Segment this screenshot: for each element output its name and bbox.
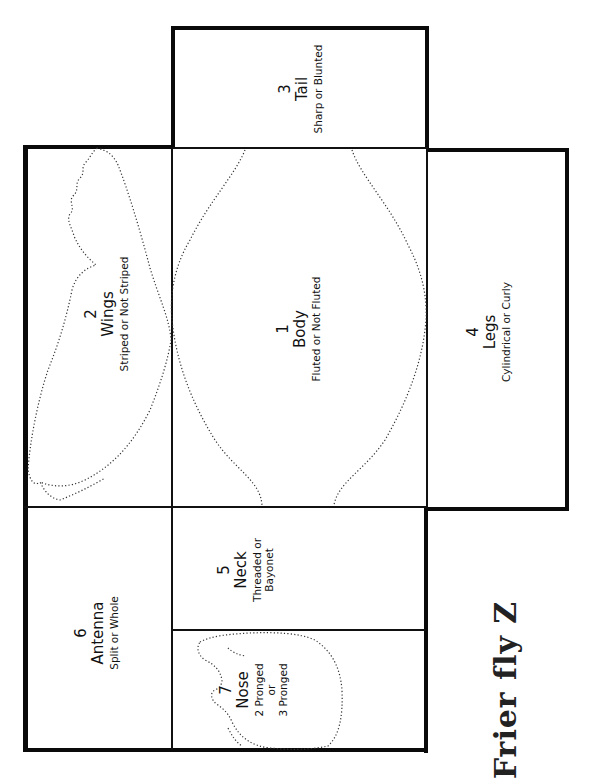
wings-name: Wings bbox=[100, 257, 117, 372]
legs-name: Legs bbox=[482, 282, 499, 382]
panel-antenna: 6 Antenna Split or Whole bbox=[28, 508, 171, 748]
panel-wings: 2 Wings Striped or Not Striped bbox=[28, 149, 171, 506]
diagram-title: Frier fly Z bbox=[488, 601, 523, 779]
nose-desc-line3: 3 Pronged bbox=[276, 663, 288, 716]
legs-number: 4 bbox=[465, 282, 482, 382]
nose-name: Nose bbox=[235, 663, 252, 716]
tail-label: 3 Tail Sharp or Blunted bbox=[277, 45, 324, 134]
wings-number: 2 bbox=[83, 257, 100, 372]
neck-desc-line2: Bayonet bbox=[262, 538, 274, 602]
panel-legs: 4 Legs Cylindrical or Curly bbox=[428, 152, 565, 507]
panel-body: 1 Body Fluted or Not Fluted bbox=[173, 149, 426, 506]
panel-tail: 3 Tail Sharp or Blunted bbox=[174, 30, 426, 148]
panel-nose: 7 Nose 2 Pronged or 3 Pronged bbox=[173, 631, 424, 748]
wings-label: 2 Wings Striped or Not Striped bbox=[83, 257, 130, 372]
antenna-desc: Split or Whole bbox=[107, 596, 119, 670]
neck-label: 5 Neck Threaded or Bayonet bbox=[216, 538, 275, 602]
antenna-number: 6 bbox=[73, 596, 90, 670]
tail-name: Tail bbox=[294, 45, 311, 134]
body-label: 1 Body Fluted or Not Fluted bbox=[275, 277, 322, 382]
neck-number: 5 bbox=[216, 538, 233, 602]
legs-desc: Cylindrical or Curly bbox=[499, 282, 511, 382]
legs-label: 4 Legs Cylindrical or Curly bbox=[465, 282, 512, 382]
tail-number: 3 bbox=[277, 45, 294, 134]
nose-desc-line1: 2 Pronged bbox=[252, 663, 264, 716]
neck-desc-line1: Threaded or bbox=[250, 538, 262, 602]
neck-name: Neck bbox=[233, 538, 250, 602]
antenna-name: Antenna bbox=[90, 596, 107, 670]
antenna-label: 6 Antenna Split or Whole bbox=[73, 596, 120, 670]
tail-desc: Sharp or Blunted bbox=[311, 45, 323, 134]
body-number: 1 bbox=[275, 277, 292, 382]
panel-neck: 5 Neck Threaded or Bayonet bbox=[173, 508, 424, 629]
body-desc: Fluted or Not Fluted bbox=[309, 277, 321, 382]
body-name: Body bbox=[292, 277, 309, 382]
wings-desc: Striped or Not Striped bbox=[117, 257, 129, 372]
nose-label: 7 Nose 2 Pronged or 3 Pronged bbox=[218, 663, 289, 716]
nose-desc-line2: or bbox=[264, 663, 276, 716]
nose-number: 7 bbox=[218, 663, 235, 716]
